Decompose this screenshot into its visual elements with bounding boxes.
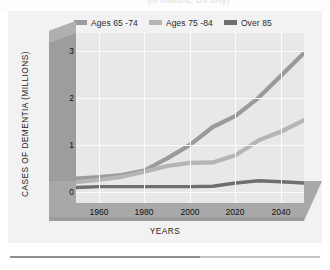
y-tick-3: 3 bbox=[52, 46, 74, 56]
y-axis-ticks: 3 2 1 0 bbox=[52, 33, 74, 203]
legend-item-over-85[interactable]: Over 85 bbox=[224, 18, 272, 28]
top-caption-text: (in millions, US only) bbox=[148, 0, 230, 5]
top-caption-strip: (in millions, US only) bbox=[0, 0, 330, 11]
gridline-x-1960 bbox=[99, 33, 100, 203]
gridline-x-2040 bbox=[281, 33, 282, 203]
x-tick-2040: 2040 bbox=[272, 207, 291, 217]
footer-divider bbox=[10, 256, 320, 258]
legend-label: Over 85 bbox=[241, 18, 272, 28]
legend-label: Ages 75 -84 bbox=[166, 18, 213, 28]
x-axis-title: YEARS bbox=[8, 226, 322, 236]
figure: (in millions, US only) Ages 65 -74 Ages … bbox=[0, 0, 330, 270]
y-axis-title: CASES OF DEMENTIA (MILLIONS) bbox=[20, 49, 30, 199]
x-tick-2000: 2000 bbox=[181, 207, 200, 217]
y-tick-2: 2 bbox=[52, 93, 74, 103]
y-tick-1: 1 bbox=[52, 140, 74, 150]
legend-swatch-icon bbox=[149, 20, 162, 25]
x-tick-2020: 2020 bbox=[226, 207, 245, 217]
legend-item-ages-65-74[interactable]: Ages 65 -74 bbox=[74, 18, 138, 28]
legend: Ages 65 -74 Ages 75 -84 Over 85 bbox=[74, 16, 320, 29]
gridline-x-2020 bbox=[235, 33, 236, 203]
x-tick-1980: 1980 bbox=[135, 207, 154, 217]
legend-item-ages-75-84[interactable]: Ages 75 -84 bbox=[149, 18, 213, 28]
chart-card: Ages 65 -74 Ages 75 -84 Over 85 bbox=[8, 11, 322, 243]
plot-area bbox=[76, 33, 304, 203]
gridline-x-2000 bbox=[190, 33, 191, 203]
y-tick-0: 0 bbox=[52, 187, 74, 197]
gridline-x-1980 bbox=[144, 33, 145, 203]
legend-swatch-icon bbox=[224, 20, 237, 25]
x-axis-ticks: 1960 1980 2000 2020 2040 bbox=[76, 207, 328, 221]
x-tick-1960: 1960 bbox=[90, 207, 109, 217]
legend-label: Ages 65 -74 bbox=[91, 18, 138, 28]
